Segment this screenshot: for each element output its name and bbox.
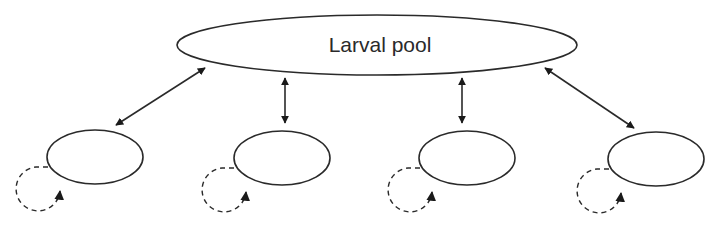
population-node-4	[577, 132, 704, 213]
larval-pool-node: Larval pool	[177, 15, 577, 75]
exchange-arrow-1	[116, 68, 205, 125]
population-node-3	[388, 131, 515, 212]
self-recruitment-loop-4	[577, 169, 621, 213]
population-node-2	[202, 131, 330, 212]
exchange-arrow-4	[545, 68, 634, 128]
self-recruitment-loop-2	[202, 168, 246, 212]
self-recruitment-loop-1	[16, 167, 60, 211]
larval-pool-label: Larval pool	[329, 33, 432, 56]
self-recruitment-loop-3	[388, 168, 432, 212]
larval-pool-diagram: Larval pool	[0, 0, 719, 237]
population-node-1	[16, 130, 143, 211]
